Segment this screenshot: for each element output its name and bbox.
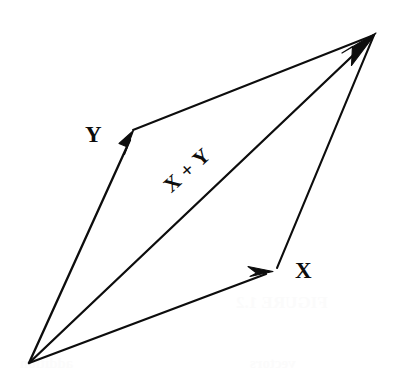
- vector-x-shaft: [29, 274, 266, 363]
- vector-canvas: [0, 0, 398, 388]
- vector-sum-shaft: [29, 43, 366, 363]
- vector-y-label: Y: [85, 123, 102, 146]
- parallelogram-side-upper: [133, 35, 374, 130]
- parallelogram-side-lower: [277, 35, 374, 268]
- vector-y-arrowhead: [119, 131, 134, 155]
- vector-x-label: X: [295, 259, 312, 282]
- vector-diagram-figure: FIGURE 1.2 vectors addition Y X X + Y: [0, 0, 398, 388]
